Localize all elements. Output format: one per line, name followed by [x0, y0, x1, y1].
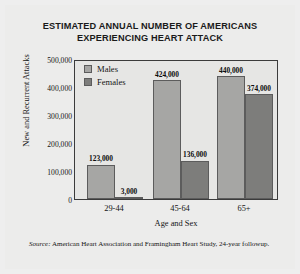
bar-males-45-64: [153, 80, 181, 199]
bar-females-65-plus: [245, 94, 273, 199]
legend-swatch-males-icon: [84, 65, 92, 73]
y-tick-label-400000: 400,000: [28, 84, 72, 93]
bar-label-males-45-64: 424,000: [155, 70, 179, 79]
source-note-prefix: Source:: [29, 240, 51, 248]
bar-label-females-45-64: 136,000: [183, 150, 207, 159]
bar-label-males-29-44: 123,000: [89, 154, 113, 163]
x-tick-label-45-64: 45-64: [150, 204, 210, 213]
y-tick-label-200000: 200,000: [28, 140, 72, 149]
bar-group-45-64: 424,000 136,000: [153, 61, 209, 199]
x-tick-label-65-plus: 65+: [214, 204, 274, 213]
bar-label-males-65-plus: 440,000: [219, 66, 243, 75]
legend-label-males: Males: [97, 64, 118, 74]
bar-males-29-44: [87, 165, 115, 199]
y-tick-label-300000: 300,000: [28, 112, 72, 121]
y-tick-label-100000: 100,000: [28, 168, 72, 177]
bar-males-65-plus: [217, 76, 245, 199]
y-tick-label-500000: 500,000: [28, 56, 72, 65]
legend-item-males: Males: [84, 63, 154, 75]
bar-label-females-29-44: 3,000: [121, 187, 138, 196]
bar-females-29-44: [115, 197, 143, 199]
y-tick-label-0: 0: [28, 196, 72, 205]
bar-females-45-64: [181, 161, 209, 199]
legend-swatch-females-icon: [84, 78, 92, 86]
bar-group-65-plus: 440,000 374,000: [217, 61, 273, 199]
legend-label-females: Females: [97, 77, 126, 87]
chart-legend: Males Females: [84, 63, 154, 89]
legend-item-females: Females: [84, 76, 154, 88]
figure-page: ESTIMATED ANNUAL NUMBER OF AMERICANS EXP…: [0, 0, 300, 274]
plot-wrapper: New and Recurrent Attacks 500,000 400,00…: [0, 0, 300, 274]
x-tick-label-29-44: 29-44: [84, 204, 144, 213]
source-note: Source: American Heart Association and F…: [29, 240, 279, 250]
x-axis-title: Age and Sex: [74, 219, 278, 228]
source-note-text: American Heart Association and Framingha…: [51, 240, 270, 248]
bar-label-females-65-plus: 374,000: [247, 84, 271, 93]
y-axis-tick-labels: 500,000 400,000 300,000 200,000 100,000 …: [26, 60, 72, 200]
